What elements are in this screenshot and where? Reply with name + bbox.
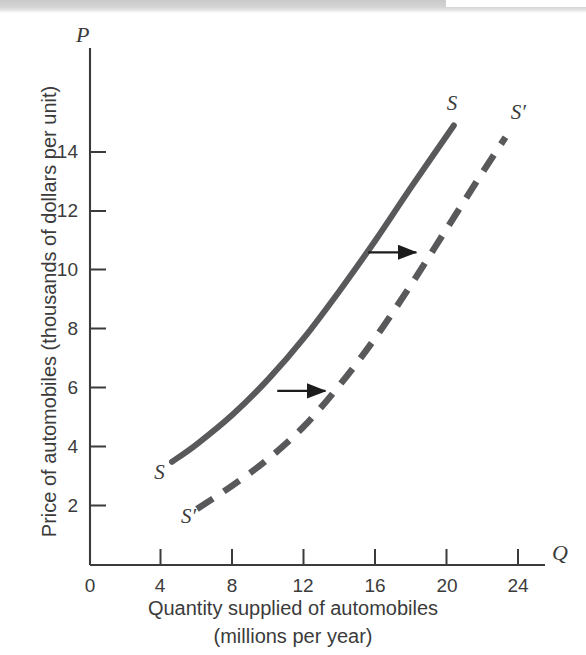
supply-curve-s bbox=[172, 125, 454, 461]
curve-label-s-prime-end: S′ bbox=[511, 100, 526, 125]
x-tick-label-0: 0 bbox=[85, 575, 96, 597]
y-axis-variable-label: P bbox=[76, 22, 89, 48]
x-tick-label-16: 16 bbox=[364, 575, 385, 597]
x-axis-title: Quantity supplied of automobiles (millio… bbox=[0, 595, 586, 650]
curve-label-s-start: S bbox=[154, 460, 165, 485]
curve-label-s-prime-start: S′ bbox=[181, 504, 196, 529]
x-axis-title-line2: (millions per year) bbox=[0, 623, 586, 651]
y-axis-ticks bbox=[90, 152, 106, 506]
x-axis-ticks bbox=[161, 549, 519, 565]
supply-curve-s-prime bbox=[197, 137, 506, 509]
supply-curve-figure: P Q 0 4 8 12 16 20 24 2 4 6 8 10 12 14 S… bbox=[0, 0, 586, 655]
x-tick-label-12: 12 bbox=[292, 575, 313, 597]
x-tick-label-20: 20 bbox=[436, 575, 457, 597]
plot-canvas bbox=[0, 0, 586, 655]
curve-label-s-end: S bbox=[447, 91, 458, 116]
x-axis-title-line1: Quantity supplied of automobiles bbox=[0, 595, 586, 623]
x-tick-label-4: 4 bbox=[155, 575, 166, 597]
x-axis-variable-label: Q bbox=[552, 540, 568, 566]
x-tick-label-24: 24 bbox=[507, 575, 528, 597]
y-axis-title: Price of automobiles (thousands of dolla… bbox=[38, 77, 61, 547]
x-tick-label-8: 8 bbox=[227, 575, 238, 597]
